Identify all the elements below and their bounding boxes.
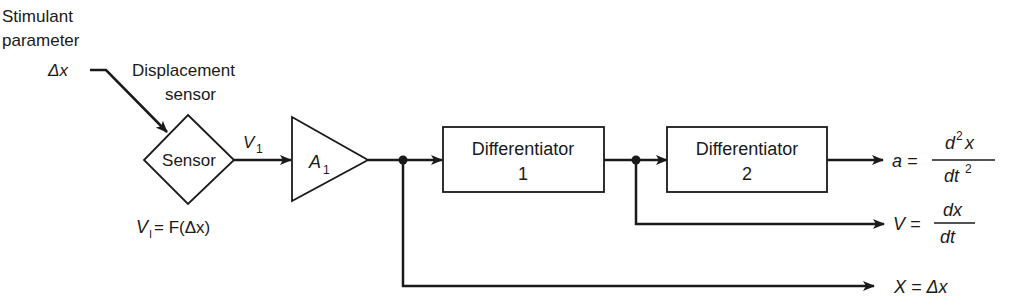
v1-equation-lhs: V: [136, 217, 150, 237]
stimulant-label: Stimulant: [2, 7, 73, 26]
sensor-label: sensor: [165, 85, 216, 104]
velocity-den: dt: [940, 227, 956, 247]
acceleration-formula: a = d 2 x dt 2: [892, 129, 995, 186]
acceleration-den: dt: [944, 166, 960, 186]
displacement-label: Displacement: [132, 61, 235, 80]
sensor-block-label: Sensor: [162, 151, 216, 170]
acceleration-num-x: x: [964, 133, 975, 153]
acceleration-den-sup: 2: [965, 162, 972, 176]
velocity-num: dx: [943, 200, 963, 220]
velocity-lhs: V =: [893, 214, 921, 234]
acceleration-num-sup: 2: [956, 129, 963, 143]
delta-x-label: Δx: [47, 61, 68, 80]
velocity-formula: V = dx dt: [893, 200, 975, 247]
v1-signal-label: V: [243, 133, 256, 152]
v1-equation-rhs: = F(Δx): [154, 218, 210, 237]
acceleration-lhs: a =: [892, 151, 918, 171]
diff2-number: 2: [742, 164, 752, 184]
amplifier-sub: 1: [323, 163, 330, 177]
amplifier-label: A: [308, 152, 321, 172]
block-diagram: Stimulant parameter Δx Displacement sens…: [0, 0, 1016, 307]
amplifier-block: A 1: [292, 117, 368, 201]
differentiator-1-block: Differentiator 1: [443, 127, 604, 192]
parameter-label: parameter: [2, 31, 80, 50]
acceleration-num-d: d: [945, 133, 956, 153]
diff1-number: 1: [518, 164, 528, 184]
displacement-output-label: X = Δx: [893, 277, 949, 297]
v1-signal-sub: 1: [256, 142, 263, 156]
v1-equation-sub: I: [149, 228, 152, 240]
differentiator-2-block: Differentiator 2: [667, 127, 827, 192]
diff2-label: Differentiator: [696, 139, 799, 159]
diff1-label: Differentiator: [472, 139, 575, 159]
sensor-block: Sensor: [144, 115, 234, 204]
